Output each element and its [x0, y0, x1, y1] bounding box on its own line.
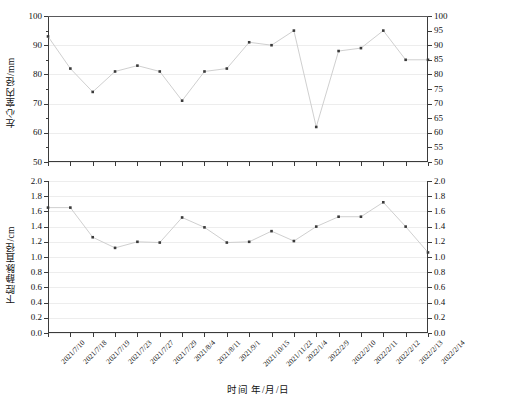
data-point-marker: [47, 206, 50, 209]
data-point-marker: [382, 201, 385, 204]
data-point-marker: [270, 44, 273, 47]
x-tick: [383, 333, 384, 337]
y-tick-label-left: 0.2: [31, 313, 42, 322]
data-point-marker: [248, 41, 251, 44]
y-tick-label-right: 70: [434, 99, 443, 108]
y-tick-label-left: 50: [33, 158, 42, 167]
data-point-marker: [315, 225, 318, 228]
data-point-marker: [136, 241, 139, 244]
x-tick: [115, 333, 116, 337]
y-tick-label-left: 0.8: [31, 268, 42, 277]
y-axis-title-bottom: 下腔静脉直径/cm: [4, 205, 18, 325]
y-tick-label-right: 90: [434, 41, 443, 50]
gridline: [48, 162, 428, 163]
x-tick: [272, 333, 273, 337]
y-tick-label-left: 0.0: [31, 329, 42, 338]
y-tick-label-right: 55: [434, 143, 443, 152]
y-tick-label-right: 0.4: [434, 298, 445, 307]
y-tick-right: [428, 118, 432, 119]
data-point-marker: [337, 50, 340, 53]
x-tick-label: 2022/2/10: [350, 339, 377, 366]
data-point-marker: [203, 70, 206, 73]
x-tick: [137, 333, 138, 337]
x-tick: [115, 162, 116, 166]
y-tick-right: [428, 242, 432, 243]
y-tick-label-right: 60: [434, 128, 443, 137]
data-point-marker: [427, 59, 430, 62]
data-point-marker: [91, 236, 94, 239]
y-tick-right: [428, 211, 432, 212]
y-tick-label-left: 0.4: [31, 298, 42, 307]
chart-panel-top: 506070809010050556065707580859095100: [48, 16, 428, 162]
y-tick-right: [428, 287, 432, 288]
x-tick: [383, 162, 384, 166]
x-tick: [272, 162, 273, 166]
data-point-marker: [293, 29, 296, 32]
series-line: [48, 31, 428, 127]
x-tick: [93, 333, 94, 337]
y-tick-label-right: 50: [434, 158, 443, 167]
data-point-marker: [47, 35, 50, 38]
data-point-marker: [158, 70, 161, 73]
y-tick-right: [428, 31, 432, 32]
data-point-marker: [248, 241, 251, 244]
y-tick-label-left: 1.4: [31, 222, 42, 231]
y-tick-label-right: 1.0: [434, 253, 445, 262]
y-tick-label-left: 1.8: [31, 192, 42, 201]
x-tick-label: 2021/7/27: [149, 339, 176, 366]
x-tick: [249, 333, 250, 337]
x-tick: [182, 333, 183, 337]
y-tick-right: [428, 181, 432, 182]
y-tick-right: [428, 104, 432, 105]
x-tick: [137, 162, 138, 166]
x-tick: [204, 162, 205, 166]
y-tick-label-right: 0.8: [434, 268, 445, 277]
y-tick-label-right: 0.6: [434, 283, 445, 292]
y-tick-label-right: 2.0: [434, 177, 445, 186]
x-tick: [160, 162, 161, 166]
data-point-marker: [360, 47, 363, 50]
y-tick-label-left: 80: [33, 70, 42, 79]
y-tick-label-right: 0.0: [434, 329, 445, 338]
data-series: [48, 16, 428, 162]
x-tick-label: 2022/2/9: [327, 339, 351, 363]
y-tick-label-left: 100: [29, 12, 43, 21]
data-point-marker: [114, 70, 117, 73]
y-tick-right: [428, 45, 432, 46]
x-tick: [160, 333, 161, 337]
y-tick-label-right: 1.6: [434, 207, 445, 216]
data-series: [48, 181, 428, 333]
y-tick-label-left: 0.6: [31, 283, 42, 292]
x-tick: [93, 162, 94, 166]
y-tick-label-right: 95: [434, 26, 443, 35]
x-tick: [339, 162, 340, 166]
x-tick: [339, 333, 340, 337]
y-tick-label-right: 65: [434, 114, 443, 123]
x-tick: [294, 333, 295, 337]
data-point-marker: [91, 91, 94, 94]
x-tick: [406, 162, 407, 166]
x-tick: [204, 333, 205, 337]
x-tick-label: 2021/7/18: [82, 339, 109, 366]
x-tick: [361, 162, 362, 166]
x-tick: [48, 333, 49, 337]
data-point-marker: [337, 215, 340, 218]
y-tick-right: [428, 303, 432, 304]
data-point-marker: [404, 225, 407, 228]
x-tick: [406, 333, 407, 337]
y-tick-label-right: 1.8: [434, 192, 445, 201]
y-tick-right: [428, 318, 432, 319]
y-tick-label-left: 70: [33, 99, 42, 108]
data-point-marker: [203, 226, 206, 229]
y-tick-right: [428, 257, 432, 258]
y-tick-label-right: 1.2: [434, 237, 445, 246]
y-tick-label-left: 60: [33, 128, 42, 137]
x-tick: [316, 162, 317, 166]
y-tick-right: [428, 74, 432, 75]
y-tick-label-left: 1.2: [31, 237, 42, 246]
data-point-marker: [270, 230, 273, 233]
x-tick: [70, 162, 71, 166]
y-tick-right: [428, 227, 432, 228]
x-tick: [294, 162, 295, 166]
x-tick-label: 2021/7/29: [172, 339, 199, 366]
